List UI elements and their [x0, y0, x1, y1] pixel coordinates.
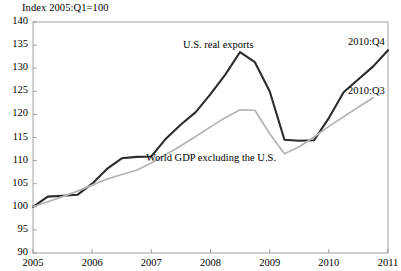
x-tick-label: 2010: [304, 257, 354, 268]
y-tick-label: 120: [2, 107, 28, 118]
y-tick-label: 110: [2, 154, 28, 165]
y-tick-label: 115: [2, 131, 28, 142]
x-tick-label: 2007: [126, 257, 176, 268]
series-line: [33, 50, 388, 207]
data-series-group: [33, 50, 388, 207]
y-tick-label: 135: [2, 38, 28, 49]
world-gdp-label: World GDP excluding the U.S.: [146, 152, 276, 163]
x-tick-label: 2006: [67, 257, 117, 268]
endpoint-2010q3: 2010:Q3: [348, 85, 385, 96]
y-tick-label: 125: [2, 84, 28, 95]
y-tick-label: 100: [2, 200, 28, 211]
x-tick-label: 2009: [245, 257, 295, 268]
endpoint-2010q4: 2010:Q4: [348, 36, 385, 47]
x-tick-label: 2008: [186, 257, 236, 268]
y-tick-label: 105: [2, 177, 28, 188]
plot-frame: [33, 22, 388, 253]
chart-container: Index 2005:Q1=100 1401351301251201151101…: [0, 0, 401, 271]
us-exports-label: U.S. real exports: [183, 39, 254, 50]
x-tick-label: 2005: [8, 257, 58, 268]
y-tick-label: 130: [2, 61, 28, 72]
y-tick-label: 140: [2, 15, 28, 26]
x-tick-label: 2011: [363, 257, 401, 268]
y-tick-label: 95: [2, 223, 28, 234]
y-tick-label: 90: [2, 246, 28, 257]
y-axis-ticks: [33, 22, 37, 253]
x-axis-ticks: [33, 249, 388, 253]
